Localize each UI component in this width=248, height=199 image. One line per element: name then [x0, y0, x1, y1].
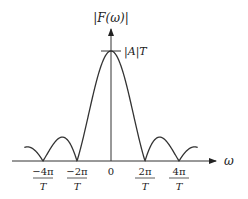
x-tick-denominator: T	[40, 181, 48, 192]
x-tick-labels: −4πT−2πT02πT4πT	[32, 166, 189, 192]
x-tick-denominator: T	[142, 181, 150, 192]
x-tick-numerator: 4π	[173, 166, 186, 177]
x-tick-denominator: T	[74, 181, 82, 192]
magnitude-spectrum-chart: |F(ω)| |A|T ω −4πT−2πT02πT4πT	[0, 0, 248, 199]
x-axis-label: ω	[224, 154, 234, 168]
y-axis-label: |F(ω)|	[93, 11, 129, 25]
x-tick-numerator: −4π	[32, 166, 54, 177]
x-tick-origin: 0	[108, 166, 114, 177]
x-tick-denominator: T	[176, 181, 184, 192]
x-tick-numerator: 2π	[139, 166, 152, 177]
peak-label: |A|T	[124, 45, 148, 59]
x-tick-numerator: −2π	[66, 166, 88, 177]
